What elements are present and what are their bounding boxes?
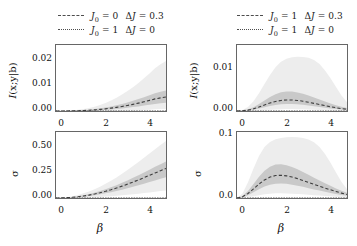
legend-entry-right-0: J0 = 1ΔJ = 0.3 (237, 7, 343, 19)
xtick-label-bottom-right-2: 4 (324, 205, 338, 215)
legend-label-left-1: J0 = 1ΔJ = 0 (91, 25, 155, 38)
xtick-label-bottom-left-1: 2 (99, 205, 113, 215)
xtick-label-bottom-right-0: 0 (235, 205, 249, 215)
legend-swatch-dashed-icon (237, 15, 263, 16)
legend-entry-left-0: J0 = 0ΔJ = 0.3 (58, 7, 164, 19)
legend-right: J0 = 1ΔJ = 0.3 J0 = 1ΔJ = 0 (179, 6, 357, 36)
legend-entry-right-1: J0 = 1ΔJ = 0 (237, 21, 334, 33)
ytick-label-bottom-right-0: 0.0 (205, 190, 233, 200)
plot-svg-top-right (237, 45, 347, 111)
xtick-label-bottom-left-2: 4 (143, 205, 157, 215)
xtick-label-bottom-right-1: 2 (280, 205, 294, 215)
legend-swatch-dotted-icon (58, 29, 84, 30)
plot-svg-top-left (56, 45, 166, 111)
xtick-label-top-left-2: 4 (143, 118, 157, 128)
legend-swatch-dotted-icon (237, 29, 263, 30)
plot-area-bottom-right (236, 131, 348, 199)
ytick-label-top-left-2: 0.02 (20, 53, 52, 63)
plot-svg-bottom-right (237, 132, 347, 198)
xtick-label-top-right-1: 2 (280, 118, 294, 128)
yaxis-label-top-right: I(x;y|b) (163, 75, 223, 86)
legend-left: J0 = 0ΔJ = 0.3 J0 = 1ΔJ = 0 (0, 6, 178, 36)
xtick-label-top-left-1: 2 (99, 118, 113, 128)
legend-entry-left-1: J0 = 1ΔJ = 0 (58, 21, 155, 33)
ytick-label-top-left-0: 0.00 (20, 103, 52, 113)
xtick-label-bottom-left-0: 0 (54, 205, 68, 215)
xtick-label-top-right-2: 4 (324, 118, 338, 128)
xaxis-label-bottom-right: β (266, 222, 296, 235)
ytick-label-bottom-left-0: 0.00 (20, 190, 52, 200)
plot-area-top-left (55, 44, 167, 112)
xaxis-label-bottom-left: β (85, 222, 115, 235)
yaxis-label-bottom-right: σ (187, 168, 207, 179)
ytick-label-top-right-0: 0.00 (201, 103, 233, 113)
plot-svg-bottom-left (56, 132, 166, 198)
plot-area-bottom-left (55, 131, 167, 199)
xtick-label-top-right-0: 0 (235, 118, 249, 128)
ytick-label-bottom-left-2: 0.50 (20, 140, 52, 150)
xtick-label-top-left-0: 0 (54, 118, 68, 128)
figure-column-right: J0 = 1ΔJ = 0.3 J0 = 1ΔJ = 0 I(x;y|b) 0.0… (179, 0, 357, 246)
figure-column-left: J0 = 0ΔJ = 0.3 J0 = 1ΔJ = 0 I(x;y|b) 0.0… (0, 0, 178, 246)
ytick-label-top-left-1: 0.01 (20, 78, 52, 88)
plot-area-top-right (236, 44, 348, 112)
ytick-label-bottom-right-1: 0.1 (205, 128, 233, 138)
ytick-label-bottom-left-1: 0.25 (20, 165, 52, 175)
ytick-label-top-right-1: 0.01 (201, 62, 233, 72)
figure-root: J0 = 0ΔJ = 0.3 J0 = 1ΔJ = 0 I(x;y|b) 0.0… (0, 0, 357, 246)
legend-label-right-1: J0 = 1ΔJ = 0 (270, 25, 334, 38)
legend-swatch-dashed-icon (58, 15, 84, 16)
